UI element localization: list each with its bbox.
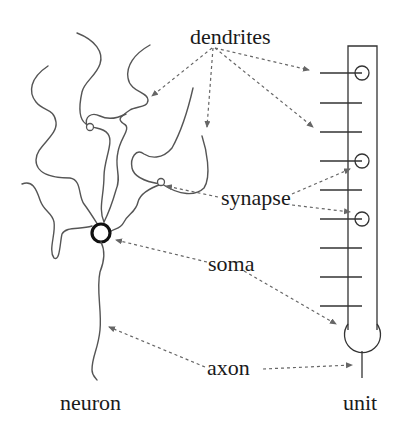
label-soma: soma: [208, 251, 255, 276]
neuron-unit-diagram: dendrites synapse soma axon neuron unit: [0, 0, 407, 427]
soma-circle: [92, 224, 110, 242]
label-synapse: synapse: [221, 185, 291, 210]
label-axon: axon: [207, 355, 250, 380]
unit-bulb: [345, 324, 381, 353]
neuron-axon: [92, 242, 104, 380]
neuron-synapse-knob-2: [158, 179, 165, 186]
unit-tube: [348, 46, 377, 330]
label-neuron: neuron: [60, 390, 121, 415]
label-unit: unit: [343, 390, 377, 415]
unit-inputs: [320, 73, 362, 306]
neuron-synapse-knob: [87, 124, 94, 131]
neuron: [22, 33, 208, 380]
dendrites-drawing: [22, 33, 208, 259]
label-dendrites: dendrites: [190, 24, 271, 49]
unit: [320, 46, 381, 378]
